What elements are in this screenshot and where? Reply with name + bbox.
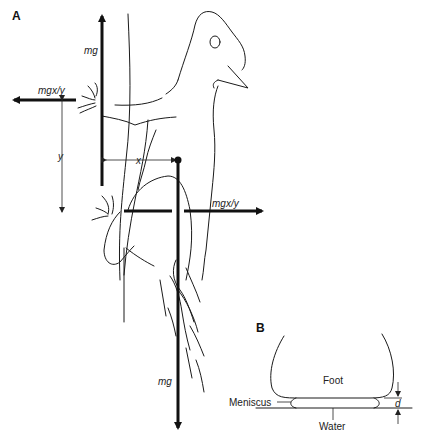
mg-up-label: mg xyxy=(84,45,98,56)
foot-outline xyxy=(271,334,394,398)
y-dimension-label: y xyxy=(57,151,64,162)
foot-label: Foot xyxy=(323,375,343,386)
meniscus-left xyxy=(291,398,296,408)
panel-b-label: B xyxy=(256,321,265,335)
d-dimension-label: d xyxy=(395,398,401,409)
water-label: Water xyxy=(319,421,346,432)
mgxy-left-label: mgx/y xyxy=(38,85,66,96)
gecko-adhesion-figure: A xyxy=(0,0,422,440)
panel-a: A xyxy=(12,9,262,428)
mg-down-label: mg xyxy=(158,376,172,387)
x-dimension-label: x xyxy=(135,155,142,166)
meniscus-label: Meniscus xyxy=(229,397,271,408)
wall-outline xyxy=(119,14,148,280)
panel-a-label: A xyxy=(12,9,21,23)
panel-b: B Foot Meniscus Water d xyxy=(229,321,412,432)
meniscus-right xyxy=(374,398,379,408)
mgxy-right-label: mgx/y xyxy=(212,198,240,209)
